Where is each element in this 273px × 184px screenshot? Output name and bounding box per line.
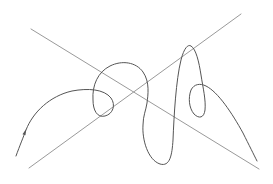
drawing-svg (0, 0, 273, 184)
line-drawing-canvas (0, 0, 273, 184)
looping-curve (16, 46, 257, 165)
direction-arrow-icon (22, 129, 27, 136)
ascending-straight-line (29, 14, 241, 168)
descending-straight-line (31, 29, 259, 169)
